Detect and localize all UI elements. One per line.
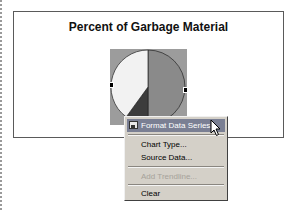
selection-handle[interactable] <box>183 87 188 93</box>
pie-slice-1[interactable] <box>148 50 185 124</box>
menu-item-add-trendline: Add Trendline... <box>127 170 225 183</box>
menu-item-chart-type[interactable]: Chart Type... <box>127 138 225 151</box>
menu-item-source-data[interactable]: Source Data... <box>127 151 225 164</box>
menu-separator <box>128 184 224 186</box>
chart-title[interactable]: Percent of Garbage Material <box>14 20 283 34</box>
menu-separator <box>128 166 224 168</box>
mouse-cursor-icon <box>210 119 222 137</box>
plot-area[interactable] <box>110 49 187 125</box>
selection-handle[interactable] <box>109 82 114 88</box>
pie-chart[interactable] <box>110 49 187 125</box>
worksheet-edge <box>0 0 2 211</box>
menu-item-clear[interactable]: Clear <box>127 187 225 200</box>
format-series-icon <box>129 121 138 129</box>
